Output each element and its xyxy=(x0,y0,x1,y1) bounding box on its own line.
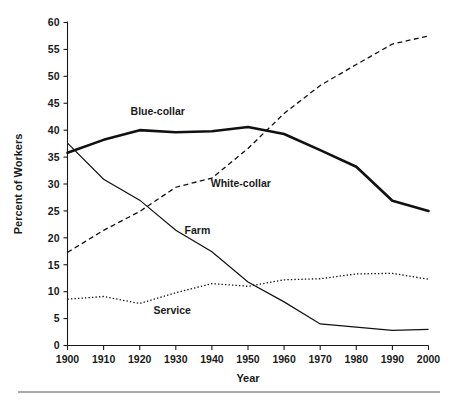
y-tick-label: 0 xyxy=(54,339,60,351)
y-tick-label: 50 xyxy=(48,70,60,82)
x-axis-title: Year xyxy=(236,372,260,384)
y-tick-label: 30 xyxy=(48,178,60,190)
x-tick-label: 1940 xyxy=(200,353,224,365)
x-tick-label: 1930 xyxy=(164,353,188,365)
y-tick-label: 55 xyxy=(48,43,60,55)
x-tick-label: 1970 xyxy=(309,353,333,365)
y-tick-label: 45 xyxy=(48,97,60,109)
y-axis-title: Percent of Workers xyxy=(12,134,24,235)
series-line-service xyxy=(68,273,429,303)
y-tick-label: 10 xyxy=(48,285,60,297)
series-label-service: Service xyxy=(154,304,192,316)
x-tick-label: 1910 xyxy=(92,353,116,365)
x-tick-label: 1990 xyxy=(381,353,405,365)
y-tick-label: 15 xyxy=(48,259,60,271)
x-axis-tick-labels: 1900191019201930194019501960197019801990… xyxy=(56,353,441,365)
y-tick-label: 5 xyxy=(54,312,60,324)
y-tick-label: 20 xyxy=(48,232,60,244)
x-tick-label: 1900 xyxy=(56,353,80,365)
series-line-farm xyxy=(68,143,429,330)
y-tick-label: 60 xyxy=(48,16,60,28)
x-tick-label: 1920 xyxy=(128,353,152,365)
series-label-blue-collar: Blue-collar xyxy=(131,105,185,117)
series-line-blue-collar xyxy=(68,127,429,211)
line-chart-canvas: 051015202530354045505560 190019101920193… xyxy=(0,0,458,402)
series-line-white-collar xyxy=(68,36,429,252)
x-tick-label: 1950 xyxy=(236,353,260,365)
series-label-white-collar: White-collar xyxy=(211,177,271,189)
y-tick-label: 35 xyxy=(48,151,60,163)
series-label-farm: Farm xyxy=(185,224,211,236)
x-axis-tick-marks xyxy=(68,346,429,351)
chart-figure: 051015202530354045505560 190019101920193… xyxy=(0,0,458,402)
x-tick-label: 1960 xyxy=(272,353,296,365)
x-tick-label: 1980 xyxy=(345,353,369,365)
y-axis-tick-labels: 051015202530354045505560 xyxy=(48,16,60,351)
x-tick-label: 2000 xyxy=(417,353,441,365)
y-tick-label: 25 xyxy=(48,205,60,217)
y-tick-label: 40 xyxy=(48,124,60,136)
y-axis-tick-marks xyxy=(64,23,68,346)
